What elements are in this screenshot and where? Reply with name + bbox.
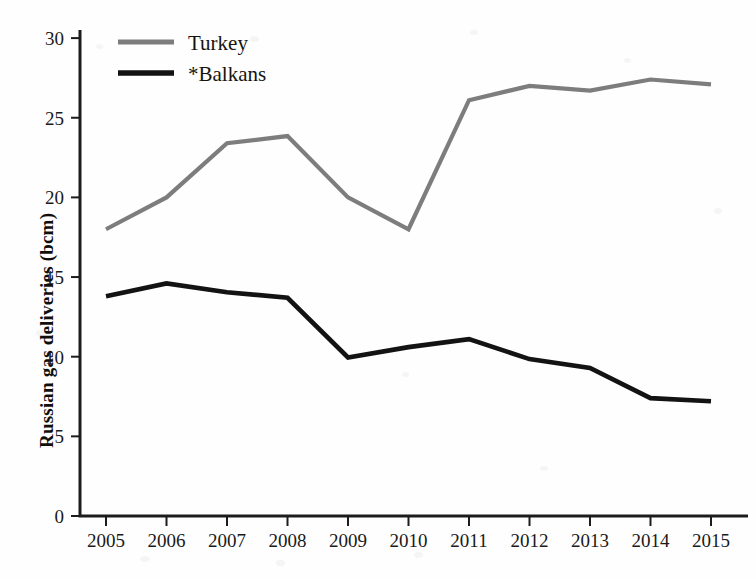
x-tick-label: 2015	[692, 530, 730, 551]
chart-figure: Russian gas deliveries (bcm) 05101520253…	[0, 0, 756, 579]
x-tick-label: 2013	[571, 530, 609, 551]
plot-area: 051015202530 200520062007200820092010201…	[0, 0, 756, 579]
chart-legend: Turkey*Balkans	[118, 31, 266, 86]
axis-lines	[80, 30, 748, 516]
legend-label: *Balkans	[188, 62, 266, 86]
y-tick-label: 30	[45, 28, 64, 49]
y-axis-ticks: 051015202530	[45, 28, 80, 527]
x-tick-label: 2008	[269, 530, 307, 551]
series-line-balkans	[106, 283, 711, 401]
x-tick-label: 2009	[329, 530, 367, 551]
legend-label: Turkey	[188, 31, 248, 55]
series-line-turkey	[106, 80, 711, 230]
y-tick-label: 20	[45, 187, 64, 208]
axis-group: 051015202530 200520062007200820092010201…	[45, 28, 748, 551]
x-tick-label: 2011	[450, 530, 487, 551]
x-tick-label: 2006	[148, 530, 186, 551]
y-tick-label: 0	[55, 506, 65, 527]
x-axis-ticks: 2005200620072008200920102011201220132014…	[87, 516, 730, 551]
series-group	[106, 80, 711, 402]
x-tick-label: 2005	[87, 530, 125, 551]
x-tick-label: 2014	[632, 530, 671, 551]
x-tick-label: 2007	[208, 530, 246, 551]
x-tick-label: 2010	[390, 530, 428, 551]
y-tick-label: 10	[45, 347, 64, 368]
y-tick-label: 5	[55, 426, 65, 447]
y-tick-label: 15	[45, 267, 64, 288]
y-tick-label: 25	[45, 108, 64, 129]
x-tick-label: 2012	[511, 530, 549, 551]
